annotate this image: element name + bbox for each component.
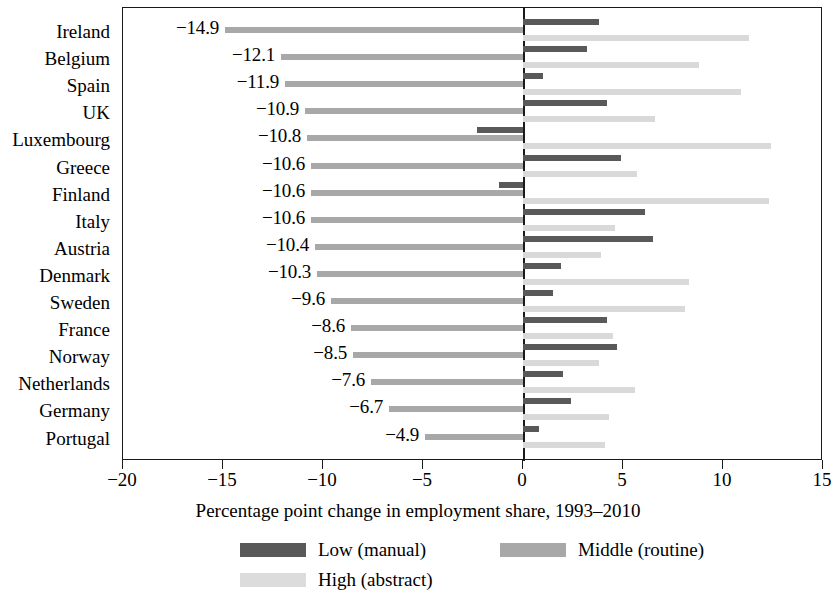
bar-middle — [281, 54, 523, 60]
bar-row: −10.6 — [123, 179, 823, 206]
bar-row: −8.6 — [123, 314, 823, 341]
bar-value-label: −6.7 — [263, 397, 383, 416]
x-axis-tick-label: 5 — [617, 470, 627, 489]
bar-value-label: −10.8 — [181, 126, 301, 145]
bar-middle — [317, 271, 523, 277]
legend-swatch-middle-icon — [500, 543, 566, 557]
y-axis-label: Spain — [0, 76, 116, 95]
bar-row: −10.9 — [123, 97, 823, 124]
x-axis-tick — [222, 460, 223, 469]
bar-value-label: −4.9 — [299, 425, 419, 444]
y-axis-label: UK — [0, 103, 116, 122]
bar-value-label: −10.9 — [179, 99, 299, 118]
bar-row: −10.6 — [123, 152, 823, 179]
bar-row: −4.9 — [123, 423, 823, 450]
bar-low — [523, 398, 571, 404]
bar-low — [523, 263, 561, 269]
bar-high — [523, 279, 689, 285]
bar-middle — [351, 325, 523, 331]
bar-row: −10.3 — [123, 260, 823, 287]
y-axis-label: Sweden — [0, 293, 116, 312]
bar-middle — [315, 244, 523, 250]
x-axis-tick — [322, 460, 323, 469]
bar-high — [523, 62, 699, 68]
bar-row: −10.8 — [123, 124, 823, 151]
x-axis-tick-label: −5 — [412, 470, 432, 489]
bar-value-label: −10.6 — [185, 181, 305, 200]
legend-label-high: High (abstract) — [318, 568, 432, 591]
bar-low — [523, 46, 587, 52]
bar-value-label: −14.9 — [99, 18, 219, 37]
bar-high — [523, 306, 685, 312]
bar-high — [523, 198, 769, 204]
bar-low — [523, 155, 621, 161]
bar-row: −6.7 — [123, 395, 823, 422]
bar-value-label: −8.5 — [227, 343, 347, 362]
y-axis-label: Belgium — [0, 49, 116, 68]
bar-low — [523, 236, 653, 242]
bar-middle — [305, 108, 523, 114]
bar-value-label: −12.1 — [155, 45, 275, 64]
bar-low — [499, 182, 523, 188]
y-axis-label: Greece — [0, 158, 116, 177]
bar-low — [523, 317, 607, 323]
bar-middle — [353, 352, 523, 358]
bar-middle — [331, 298, 523, 304]
bar-low — [523, 209, 645, 215]
bar-middle — [225, 27, 523, 33]
x-axis-tick-label: 0 — [517, 470, 527, 489]
bar-value-label: −10.3 — [191, 262, 311, 281]
x-axis-tick-label: 15 — [813, 470, 832, 489]
bar-low — [523, 73, 543, 79]
y-axis-label: Norway — [0, 347, 116, 366]
bar-middle — [285, 81, 523, 87]
bar-value-label: −7.6 — [245, 370, 365, 389]
bar-value-label: −11.9 — [159, 72, 279, 91]
x-axis-tick — [522, 460, 523, 469]
bar-high — [523, 143, 771, 149]
bar-row: −11.9 — [123, 70, 823, 97]
bar-row: −12.1 — [123, 43, 823, 70]
y-axis-label: Denmark — [0, 266, 116, 285]
bar-high — [523, 333, 613, 339]
bar-high — [523, 225, 615, 231]
bar-middle — [307, 135, 523, 141]
y-axis-label: Netherlands — [0, 374, 116, 393]
plot-area: −14.9−12.1−11.9−10.9−10.8−10.6−10.6−10.6… — [122, 7, 822, 460]
y-axis-label: France — [0, 320, 116, 339]
y-axis-label: Finland — [0, 185, 116, 204]
x-axis-tick — [622, 460, 623, 469]
bar-value-label: −10.6 — [185, 208, 305, 227]
bar-row: −8.5 — [123, 341, 823, 368]
y-axis-label: Austria — [0, 239, 116, 258]
bar-low — [523, 290, 553, 296]
legend-label-middle: Middle (routine) — [578, 538, 704, 561]
bar-low — [523, 344, 617, 350]
bar-row: −14.9 — [123, 16, 823, 43]
x-axis-tick — [122, 460, 123, 469]
legend-swatch-high-icon — [240, 573, 306, 587]
bar-middle — [371, 379, 523, 385]
bar-middle — [389, 406, 523, 412]
bar-low — [477, 127, 523, 133]
bar-row: −10.4 — [123, 233, 823, 260]
x-axis: −20−15−10−5051015 — [122, 460, 822, 502]
bar-value-label: −8.6 — [225, 316, 345, 335]
legend: Low (manual) Middle (routine) High (abst… — [0, 538, 836, 601]
bar-high — [523, 442, 605, 448]
bar-middle — [425, 434, 523, 440]
x-axis-tick — [822, 460, 823, 469]
x-axis-tick-label: −20 — [107, 470, 137, 489]
legend-label-low: Low (manual) — [318, 538, 426, 561]
bar-high — [523, 35, 749, 41]
x-axis-tick — [422, 460, 423, 469]
bar-low — [523, 371, 563, 377]
x-axis-tick-label: −15 — [207, 470, 237, 489]
y-axis-label: Luxembourg — [0, 130, 116, 149]
y-axis-label: Portugal — [0, 429, 116, 448]
x-axis-tick-label: −10 — [307, 470, 337, 489]
bar-middle — [311, 163, 523, 169]
bar-middle — [311, 217, 523, 223]
bar-value-label: −10.6 — [185, 154, 305, 173]
x-axis-tick-label: 10 — [713, 470, 732, 489]
